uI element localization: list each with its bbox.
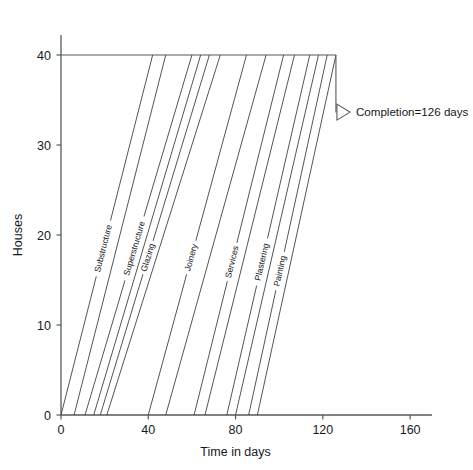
balance-line-painting-start [249, 55, 328, 415]
line-of-balance-chart: Completion=126 days SubstructureSuperstr… [0, 0, 473, 470]
activity-band-glazing [100, 55, 220, 415]
activity-band-substructure [61, 55, 166, 415]
activity-label-substructure: Substructure [92, 223, 114, 273]
balance-line-services-finish [205, 55, 294, 415]
completion-arrow-icon [337, 104, 350, 120]
completion-annotation-label: Completion=126 days [356, 105, 469, 118]
y-tick-label-30: 30 [37, 139, 51, 153]
balance-line-painting-finish [257, 55, 336, 415]
y-axis-title: Houses [11, 214, 25, 256]
activity-band-services [194, 55, 294, 415]
x-tick-label-40: 40 [141, 423, 155, 437]
x-axis-title: Time in days [200, 445, 270, 459]
x-tick-label-120: 120 [312, 423, 333, 437]
activity-label-group-plastering: Plastering [251, 237, 272, 287]
activity-labels-group: SubstructureSuperstructureGlazingJoinery… [91, 215, 289, 291]
y-tick-label-10: 10 [37, 319, 51, 333]
chart-canvas: Completion=126 days SubstructureSuperstr… [0, 0, 473, 470]
activity-band-painting [249, 55, 336, 415]
x-tick-label-0: 0 [58, 423, 65, 437]
x-tick-label-80: 80 [229, 423, 243, 437]
activity-label-plastering: Plastering [253, 242, 271, 282]
activity-label-services: Services [223, 245, 241, 279]
balance-line-plastering-finish [236, 55, 319, 415]
y-tick-label-0: 0 [44, 409, 51, 423]
balance-line-joinery-finish [166, 55, 266, 415]
balance-line-joinery-start [148, 55, 246, 415]
activity-band-plastering [227, 55, 319, 415]
annotation-group: Completion=126 days [336, 55, 469, 120]
activity-label-glazing: Glazing [139, 242, 157, 273]
y-tick-label-20: 20 [37, 229, 51, 243]
balance-line-glazing-finish [107, 55, 220, 415]
activity-label-group-services: Services [222, 242, 241, 283]
activity-label-joinery: Joinery [182, 242, 199, 272]
activity-label-painting: Painting [271, 254, 287, 287]
x-tick-label-160: 160 [400, 423, 421, 437]
balance-line-glazing-start [100, 55, 209, 415]
y-tick-label-40: 40 [37, 49, 51, 63]
balance-line-substructure-finish [74, 55, 166, 415]
activity-label-group-joinery: Joinery [181, 239, 200, 275]
